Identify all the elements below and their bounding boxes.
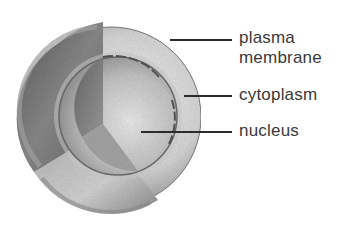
label-plasma-membrane-line2: membrane (239, 48, 322, 68)
cytoplasm-leader-line (184, 95, 232, 97)
label-plasma-membrane-line1: plasma (239, 28, 322, 48)
nucleus-leader-line (141, 131, 232, 133)
label-plasma-membrane: plasma membrane (239, 28, 322, 68)
plasma-membrane-leader-line (170, 39, 232, 41)
label-cytoplasm: cytoplasm (239, 85, 317, 105)
label-nucleus: nucleus (239, 121, 299, 141)
